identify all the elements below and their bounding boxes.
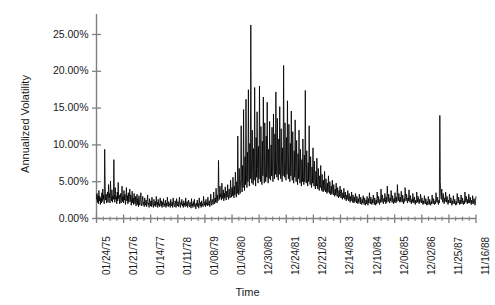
x-tick-label: 01/24/75 [101,236,112,275]
x-tick-label: 12/30/80 [263,236,274,275]
x-tick-label: 12/14/83 [344,236,355,275]
x-tick-label: 01/04/80 [236,236,247,275]
x-axis-title: Time [0,286,495,298]
x-tick-label: 01/08/79 [209,236,220,275]
x-tick-label: 12/06/85 [399,236,410,275]
x-tick-label: 01/21/76 [128,236,139,275]
x-tick-label: 11/25/87 [453,236,464,274]
chart-plot-area [0,0,495,305]
y-tick-label: 25.00% [25,28,89,40]
x-tick-label: 11/16/88 [480,236,491,274]
volatility-chart: Annualized Volatility Time 0.00%5.00%10.… [0,0,495,305]
y-tick-label: 20.00% [25,64,89,76]
y-tick-label: 0.00% [25,212,89,224]
x-tick-label: 12/02/86 [426,236,437,275]
y-tick-label: 15.00% [25,101,89,113]
x-tick-label: 01/11/78 [182,236,193,274]
x-tick-label: 01/14/77 [155,236,166,275]
y-tick-label: 10.00% [25,138,89,150]
x-tick-label: 12/21/82 [317,236,328,275]
x-tick-label: 12/10/84 [372,236,383,275]
x-tick-label: 12/24/81 [290,236,301,275]
y-tick-label: 5.00% [25,175,89,187]
